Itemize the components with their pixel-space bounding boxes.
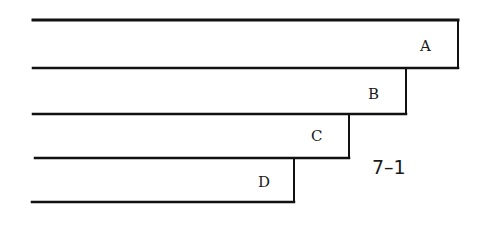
strip-label: A [419,37,431,55]
strip-c: C [35,114,349,158]
figure-label: 7–1 [372,156,406,178]
strip-a: A [33,20,458,68]
diagram-canvas: ABCD 7–1 [0,0,478,227]
strip-d: D [32,158,294,202]
strip-label: C [311,127,322,145]
strip-label: B [368,85,379,103]
strip-label: D [258,173,270,191]
staircase-strips-diagram: ABCD 7–1 [0,0,478,227]
strip-b: B [33,68,406,114]
